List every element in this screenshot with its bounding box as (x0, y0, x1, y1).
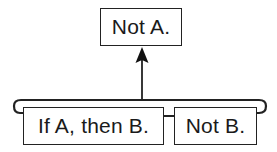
premise-label-1: If A, then B. (38, 114, 149, 138)
premise-label-2: Not B. (186, 114, 246, 138)
conclusion-label: Not A. (112, 15, 170, 39)
premise-box-2: Not B. (174, 107, 257, 145)
premise-box-1: If A, then B. (23, 107, 164, 145)
conclusion-box: Not A. (100, 8, 182, 46)
